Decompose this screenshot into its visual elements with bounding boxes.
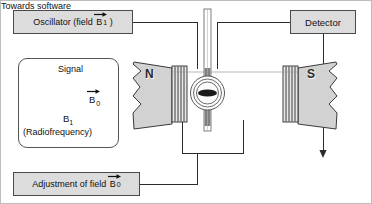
legend-b0-symbol: B (89, 94, 95, 105)
oscillator-text-after: ) (110, 17, 113, 27)
vector-arrow-icon (87, 88, 100, 94)
south-pole-label: S (307, 67, 315, 81)
oscillator-text-before: Oscillator (field (33, 17, 93, 27)
legend-b1-label: B1 (63, 113, 73, 124)
wire-adjustment-to-bus (140, 153, 197, 184)
oscillator-symbol: B (96, 17, 102, 27)
sample-tube (204, 9, 211, 131)
left-magnet-coil (172, 66, 187, 122)
legend-b0-label: B0 (88, 94, 100, 105)
detector-block[interactable]: Detector (290, 10, 356, 34)
wire-oscillator-to-coil (133, 22, 197, 69)
adjustment-of-field-block[interactable]: Adjustment of field B0 (13, 172, 140, 196)
south-pole-piece (298, 62, 337, 129)
wire-detector-to-coil (217, 22, 290, 69)
vector-arrow-icon (108, 173, 121, 179)
nmr-spectrometer-diagram: Signal B0 B1 (Radiofrequency) N S Toward… (0, 0, 372, 204)
north-pole-label: N (145, 67, 154, 81)
legend-signal-label: Signal (58, 64, 83, 74)
legend-b0-subscript: 0 (96, 100, 100, 107)
towards-software-arrowhead (319, 150, 326, 158)
detector-label: Detector (305, 17, 341, 28)
wire-magnet-coils-bus (182, 120, 243, 153)
right-magnet-coil (283, 66, 298, 122)
oscillator-label: Oscillator (field B1 ) (33, 17, 112, 27)
sample-coil-core (198, 89, 217, 96)
adjustment-symbol: B (110, 179, 116, 189)
legend-radiofrequency-label: (Radiofrequency) (23, 127, 92, 137)
vector-arrow-icon (94, 11, 107, 17)
legend-b1-subscript: 1 (69, 119, 73, 126)
adjustment-text-before: Adjustment of field (32, 179, 106, 189)
oscillator-block[interactable]: Oscillator (field B1 ) (13, 10, 133, 34)
adjustment-label: Adjustment of field B0 (32, 179, 120, 189)
